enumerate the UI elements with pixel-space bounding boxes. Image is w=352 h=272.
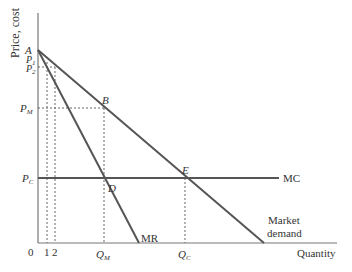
monopoly-diagram: Price, cost A P1 P2 PM PC B D E MC MR Ma… — [0, 0, 352, 272]
label-demand-2: demand — [267, 227, 302, 239]
dashed-guides — [38, 62, 185, 243]
label-mc: MC — [283, 172, 300, 184]
label-qm: QM — [96, 248, 111, 262]
label-d: D — [107, 182, 116, 194]
label-demand-1: Market — [268, 214, 300, 226]
label-pm: PM — [19, 102, 34, 116]
mr-curve — [38, 50, 139, 243]
label-q2: 2 — [52, 246, 58, 258]
label-pc: PC — [21, 172, 34, 186]
label-qc: QC — [178, 248, 191, 262]
label-origin: 0 — [28, 246, 34, 258]
label-q1: 1 — [44, 246, 50, 258]
x-axis-label: Quantity — [297, 247, 336, 259]
y-axis-label: Price, cost — [8, 7, 22, 58]
label-b: B — [102, 94, 109, 106]
demand-curve — [38, 50, 264, 243]
label-e: E — [181, 164, 189, 176]
label-mr: MR — [141, 232, 159, 244]
